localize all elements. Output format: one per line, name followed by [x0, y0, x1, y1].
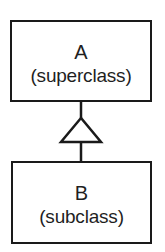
subclass-role: (subclass): [39, 205, 124, 229]
hollow-triangle-arrowhead-icon: [61, 118, 101, 142]
subclass-name: B: [75, 181, 88, 205]
subclass-box: B (subclass): [11, 161, 152, 244]
